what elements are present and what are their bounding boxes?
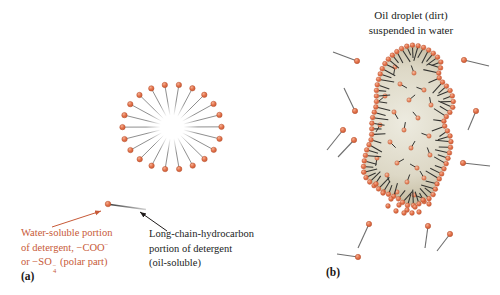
surface-polar-head: [417, 201, 422, 206]
micelle-polar-head: [190, 86, 195, 91]
micelle-polar-head: [128, 101, 133, 106]
surface-polar-head: [450, 105, 455, 110]
micelle-diagram: [120, 82, 224, 172]
surface-polar-head: [396, 196, 401, 201]
surface-molecule-tail: [379, 91, 386, 92]
surface-polar-head: [386, 204, 391, 209]
surface-molecule-tail: [366, 167, 373, 168]
interior-polar-head: [392, 110, 396, 114]
micelle-polar-head: [149, 163, 154, 168]
surface-polar-head: [373, 105, 378, 110]
surface-polar-head: [378, 72, 383, 77]
surface-polar-head: [448, 134, 453, 139]
free-polar-head: [355, 254, 360, 259]
surface-polar-head: [444, 114, 449, 119]
free-molecule-tail: [437, 234, 450, 251]
free-molecule-tail: [344, 88, 355, 111]
surface-polar-head: [402, 211, 407, 216]
micelle-polar-head: [122, 112, 127, 117]
surface-molecule-tail: [374, 134, 385, 135]
surface-polar-head: [436, 71, 441, 76]
free-polar-head: [447, 231, 452, 236]
free-polar-head: [340, 127, 345, 132]
micelle-polar-head: [177, 166, 182, 171]
interior-polar-head: [412, 71, 416, 75]
molecule-tail: [110, 205, 146, 210]
interior-polar-head: [416, 116, 420, 120]
surface-polar-head: [390, 53, 395, 58]
surface-polar-head: [370, 115, 375, 120]
free-molecule-tail: [463, 163, 490, 166]
surface-polar-head: [367, 180, 372, 185]
free-molecule-tail: [358, 224, 369, 248]
interior-polar-head: [409, 146, 413, 150]
surface-polar-head: [440, 80, 445, 85]
surface-polar-head: [439, 172, 444, 177]
surface-polar-head: [445, 128, 450, 133]
interior-polar-head: [422, 88, 426, 92]
surface-polar-head: [438, 60, 443, 65]
surface-polar-head: [427, 196, 432, 201]
surface-polar-head: [442, 124, 447, 129]
panel-a-label: (a): [21, 270, 34, 282]
surface-polar-head: [381, 191, 386, 196]
interior-polar-head: [398, 82, 402, 86]
micelle-polar-head: [211, 147, 216, 152]
surface-polar-head: [450, 93, 455, 98]
surface-polar-head: [372, 110, 377, 115]
surface-polar-head: [447, 110, 452, 115]
surface-polar-head: [426, 48, 431, 53]
surface-polar-head: [363, 153, 368, 158]
surface-polar-head: [364, 148, 369, 153]
surface-polar-head: [362, 159, 367, 164]
surface-polar-head: [431, 192, 436, 197]
surface-polar-head: [417, 210, 422, 215]
surface-polar-head: [437, 177, 442, 182]
surface-polar-head: [442, 119, 447, 124]
oil-droplet: [361, 43, 456, 216]
interior-polar-head: [388, 140, 392, 144]
interior-polar-head: [405, 180, 409, 184]
figure-stage: Oil droplet (dirt) suspended in water Wa…: [0, 0, 500, 295]
surface-polar-head: [431, 51, 436, 56]
surface-polar-head: [448, 145, 453, 150]
interior-polar-head: [402, 128, 406, 132]
surface-polar-head: [421, 198, 426, 203]
caption-line-2: suspended in water: [336, 23, 486, 38]
surface-polar-head: [438, 66, 443, 71]
surface-polar-head: [444, 161, 449, 166]
free-polar-head: [352, 108, 357, 113]
surface-polar-head: [442, 166, 447, 171]
free-polar-head: [354, 58, 359, 63]
surface-polar-head: [380, 66, 385, 71]
surface-polar-head: [382, 61, 387, 66]
surface-polar-head: [413, 205, 418, 210]
water-soluble-label: Water-soluble portionof detergent, −COO−…: [21, 226, 112, 274]
micelle-polar-head: [202, 92, 207, 97]
free-polar-head: [351, 137, 356, 142]
oil-droplet-caption: Oil droplet (dirt) suspended in water: [336, 8, 486, 37]
surface-molecule-tail: [413, 190, 414, 203]
micelle-polar-head: [217, 112, 222, 117]
surface-polar-head: [433, 187, 438, 192]
surface-polar-head: [410, 211, 415, 216]
surface-polar-head: [369, 137, 374, 142]
panel-b-label: (b): [326, 266, 340, 278]
surface-polar-head: [446, 156, 451, 161]
surface-polar-head: [421, 45, 426, 50]
surface-polar-head: [410, 43, 415, 48]
surface-polar-head: [374, 182, 379, 187]
surface-polar-head: [449, 139, 454, 144]
micelle-polar-head: [162, 82, 167, 87]
molecule-polar-head: [105, 201, 111, 207]
interior-polar-head: [395, 161, 399, 165]
micelle-polar-head: [211, 101, 216, 106]
surface-polar-head: [361, 164, 366, 169]
surface-polar-head: [427, 202, 432, 207]
micelle-polar-head: [137, 92, 142, 97]
micelle-polar-head: [149, 86, 154, 91]
surface-polar-head: [394, 209, 399, 214]
surface-polar-head: [369, 126, 374, 131]
surface-polar-head: [405, 203, 410, 208]
micelle-polar-head: [120, 124, 125, 129]
